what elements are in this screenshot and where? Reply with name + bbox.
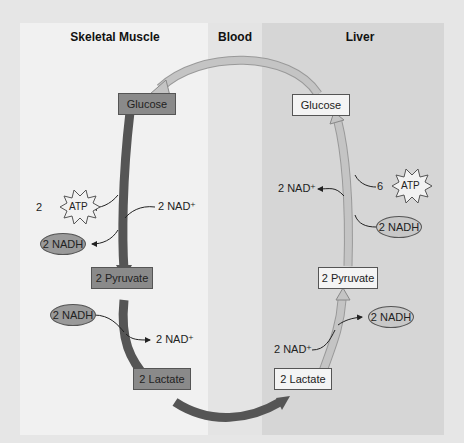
muscle-glucose-box: Glucose — [118, 93, 176, 115]
muscle-nadh-in: 2 NADH — [50, 304, 96, 326]
muscle-nadh-out: 2 NADH — [40, 233, 86, 255]
muscle-nad-out: 2 NAD⁺ — [156, 333, 194, 346]
muscle-atp-label: ATP — [69, 201, 88, 212]
liver-pyruvate-box: 2 Pyruvate — [318, 267, 378, 289]
muscle-nad-in: 2 NAD⁺ — [158, 200, 196, 213]
liver-atp-label: ATP — [401, 180, 420, 191]
muscle-lactate-box: 2 Lactate — [133, 368, 191, 390]
liver-lactate-box: 2 Lactate — [274, 368, 332, 390]
liver-nad-out: 2 NAD⁺ — [278, 182, 316, 195]
liver-nadh-upper: 2 NADH — [376, 216, 422, 238]
liver-atp-coef: 6 — [377, 180, 383, 192]
muscle-atp-coef: 2 — [36, 201, 42, 213]
liver-nadh-lower: 2 NADH — [368, 306, 414, 328]
liver-glucose-box: Glucose — [292, 94, 350, 116]
liver-nad-in: 2 NAD⁺ — [274, 343, 312, 356]
muscle-pyruvate-box: 2 Pyruvate — [91, 267, 153, 289]
